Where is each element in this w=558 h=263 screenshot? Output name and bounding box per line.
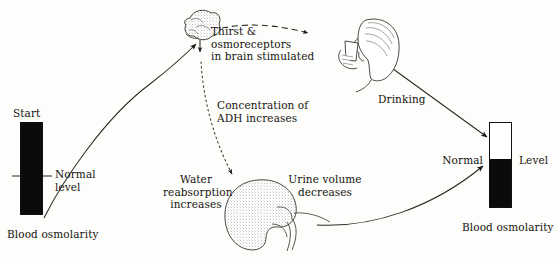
kidney-water-reabsorption-label: Water reabsorption increases bbox=[163, 173, 229, 211]
kidney-urine-volume-label: Urine volume decreases bbox=[285, 173, 365, 198]
right-gauge-level-label: Level bbox=[519, 154, 548, 167]
left-gauge-fill bbox=[21, 123, 42, 214]
left-gauge-start-label: Start bbox=[13, 107, 40, 120]
right-blood-osmolarity-gauge bbox=[489, 122, 512, 208]
left-gauge-caption: Blood osmolarity bbox=[7, 228, 99, 241]
left-gauge-normal-level-label: Normal level bbox=[55, 168, 96, 193]
right-gauge-fill bbox=[490, 159, 511, 207]
right-gauge-normal-label: Normal bbox=[425, 154, 483, 167]
osmolarity-feedback-diagram: Start Normal level Blood osmolarity Thir… bbox=[0, 0, 558, 263]
left-blood-osmolarity-gauge bbox=[20, 122, 43, 215]
drinking-node-label: Drinking bbox=[378, 93, 426, 106]
adh-annotation: Concentration of ADH increases bbox=[217, 99, 308, 124]
right-gauge-caption: Blood osmolarity bbox=[462, 221, 554, 234]
brain-node-label: Thirst & osmoreceptors in brain stimulat… bbox=[211, 25, 314, 63]
person-drinking-icon bbox=[339, 19, 399, 92]
